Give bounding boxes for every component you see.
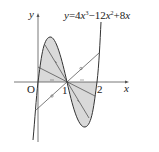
tick-label-2: 2: [97, 83, 103, 95]
equation-label: y=4x3−12x2+8x: [63, 9, 130, 21]
y-axis-label: y: [28, 8, 34, 20]
x-axis-label: x: [123, 82, 129, 94]
origin-label: O: [27, 83, 35, 95]
diagram: y x O 1 2 y=4x3−12x2+8x: [0, 0, 159, 152]
tick-label-1: 1: [62, 84, 68, 96]
shaded-region-left: [38, 37, 67, 82]
y-axis-arrow-icon: [37, 13, 40, 17]
